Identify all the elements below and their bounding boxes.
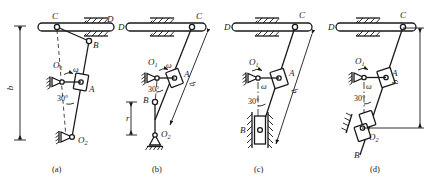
guide-lower-b: [150, 31, 174, 36]
svg-text:2: 2: [376, 136, 379, 143]
label-D-a: D: [106, 14, 114, 24]
angle-30-d: 30°: [354, 94, 371, 104]
svg-text:1: 1: [60, 64, 63, 71]
omega-arrow-a: ω: [64, 65, 79, 75]
joint-C-a: [54, 24, 59, 29]
dimension-label-b-a: b: [5, 85, 15, 90]
joint-B-a: [86, 38, 91, 43]
guide-lower-d: [356, 31, 380, 36]
label-O1-d: O 1: [355, 56, 365, 67]
dimension-r-b: r: [126, 102, 137, 135]
caption-c: (c): [254, 164, 264, 174]
label-D-d: D: [327, 22, 335, 32]
figure-canvas: b: [0, 0, 439, 187]
dimension-b-a: b: [5, 26, 26, 140]
omega-label-a: ω: [73, 65, 79, 74]
label-C-b: C: [196, 11, 203, 21]
dimension-label-r-b: r: [126, 113, 130, 123]
angle-label-c: 30°: [248, 97, 259, 106]
guide-upper-b: [150, 18, 174, 23]
omega-label-c: ω: [261, 82, 267, 91]
label-O2-d: O 2: [369, 132, 379, 143]
dimension-b-c: b: [276, 34, 312, 144]
joint-B-b: [152, 99, 157, 104]
angle-30-a: 30°: [57, 94, 74, 104]
angle-label-b: 30°: [148, 85, 159, 94]
ground-pivot-O1-c: [243, 73, 261, 86]
label-B-d: B: [354, 150, 360, 160]
label-B-a: B: [93, 40, 99, 50]
guide-upper-a: [84, 18, 108, 23]
subfigure-c: ω 30°: [223, 10, 312, 174]
omega-label-d: ω: [366, 82, 372, 91]
label-D-b: D: [117, 22, 125, 32]
label-O2-a: O 2: [78, 135, 88, 146]
label-O1-a: O 1: [53, 60, 63, 71]
subfigure-a: b: [5, 11, 114, 174]
label-O1-b: O 1: [148, 57, 158, 68]
dimension-label-b-b: b: [187, 80, 198, 88]
label-A-c: A: [288, 68, 295, 78]
joint-C-d: [400, 24, 405, 29]
dimension-label-b-c: b: [289, 87, 300, 95]
label-O1-c: O 1: [249, 57, 259, 68]
svg-text:1: 1: [362, 60, 365, 67]
label-C-d: C: [400, 10, 407, 20]
svg-text:1: 1: [256, 61, 259, 68]
angle-label-a: 30°: [57, 94, 68, 103]
label-C-c: C: [299, 10, 306, 20]
label-A-b: A: [183, 69, 190, 79]
slider-rod-a: [38, 23, 114, 31]
label-O2-b: O 2: [161, 129, 171, 140]
label-B-b: B: [143, 95, 149, 105]
label-C-a: C: [52, 11, 59, 21]
svg-text:1: 1: [155, 61, 158, 68]
slider-guide-B-c: [247, 112, 273, 148]
ground-pivot-O1-d: [349, 72, 367, 85]
angle-30-c: 30°: [248, 97, 266, 106]
subfigure-d: ω 30° b C D: [327, 10, 424, 174]
guide-upper-c: [255, 18, 279, 23]
svg-text:2: 2: [85, 139, 88, 146]
ground-pivot-O2-a: [56, 131, 75, 144]
svg-text:2: 2: [168, 133, 171, 140]
angle-30-b: 30°: [148, 85, 163, 94]
dimension-label-b-d: b: [390, 79, 400, 84]
joint-C-c: [292, 24, 297, 29]
joint-C-b: [189, 24, 194, 29]
omega-label-b: ω: [166, 61, 172, 70]
label-A-d: A: [391, 68, 398, 78]
subfigure-b: ω 30° r: [117, 11, 207, 174]
omega-arrow-b: ω: [159, 61, 172, 71]
guide-lower-c: [255, 31, 279, 36]
caption-a: (a): [52, 164, 62, 174]
label-B-c: B: [240, 125, 246, 135]
caption-b: (b): [152, 164, 162, 174]
slider-rod-c: [232, 23, 312, 31]
label-A-a: A: [88, 84, 95, 94]
caption-d: (d): [370, 164, 380, 174]
angle-label-d: 30°: [354, 94, 365, 103]
guide-upper-d: [356, 18, 380, 23]
guide-lower-a: [84, 31, 108, 36]
label-D-c: D: [223, 22, 231, 32]
